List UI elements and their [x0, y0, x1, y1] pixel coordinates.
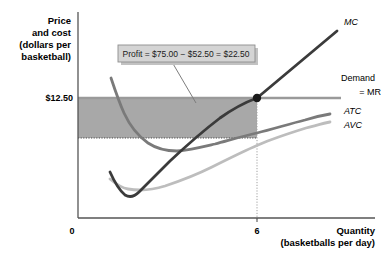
demand-label-line-2: = MR	[359, 87, 381, 97]
profit-rectangle	[78, 98, 257, 138]
atc-curve-label: ATC	[343, 106, 362, 116]
y-axis-title-line-1: Price	[48, 15, 71, 26]
avc-curve-label: AVC	[343, 120, 363, 130]
x-tick-label-0: 0	[69, 226, 74, 236]
profit-maximizing-point	[253, 94, 261, 102]
y-axis-title-line-3: (dollars per	[19, 39, 71, 50]
mc-curve-upper	[257, 31, 337, 98]
cost-curves-chart: Price and cost (dollars per basketball) …	[0, 0, 392, 260]
x-tick-label-6: 6	[254, 226, 259, 236]
x-axis-subtitle: (basketballs per day)	[280, 237, 375, 248]
x-axis-title: Quantity	[336, 225, 375, 236]
mc-curve-label: MC	[344, 17, 358, 27]
profit-callout-text: Profit = $75.00 − $52.50 = $22.50	[123, 49, 250, 59]
y-axis-title-line-4: basketball)	[21, 51, 71, 62]
demand-label-line-1: Demand	[341, 73, 375, 83]
y-axis-title-line-2: and cost	[32, 27, 72, 38]
y-tick-label-12-50: $12.50	[45, 93, 73, 103]
